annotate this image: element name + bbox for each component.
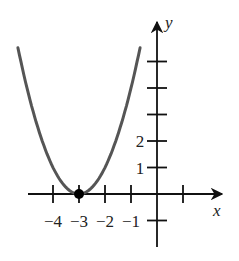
x-tick-label: −2	[96, 212, 114, 231]
x-tick-label: −4	[44, 212, 63, 231]
parabola-chart: −4−3−2−1 12 x y	[0, 0, 239, 261]
x-tick-label: −1	[122, 212, 140, 231]
vertex-point	[74, 189, 84, 199]
parabola-curve	[18, 48, 140, 194]
x-tick-labels: −4−3−2−1	[44, 212, 140, 231]
y-tick-labels: 12	[136, 132, 145, 178]
x-axis-label: x	[212, 201, 221, 220]
x-tick-label: −3	[70, 212, 88, 231]
y-tick-label: 2	[136, 132, 145, 151]
y-axis-label: y	[163, 13, 173, 32]
y-tick-label: 1	[136, 159, 145, 178]
